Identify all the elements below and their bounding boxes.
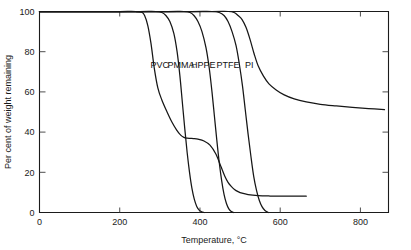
data-curves: [40, 11, 385, 212]
curve-hppe: [40, 11, 234, 212]
curve-pmma: [40, 11, 204, 212]
x-axis-ticks-bottom: [120, 208, 361, 213]
x-tick-label: 200: [112, 217, 127, 227]
x-axis-tick-labels: 0200400600800: [37, 217, 368, 227]
series-inline-labels: PVCPMMAHPPEPTFEPI: [151, 60, 254, 70]
y-axis-title: Per cent of weight remaining: [3, 55, 13, 169]
x-axis-ticks-top: [120, 12, 361, 17]
x-tick-label: 600: [273, 217, 288, 227]
series-label-ptfe: PTFE: [217, 60, 240, 70]
y-axis-ticks-right: [383, 52, 389, 173]
tga-chart: 0200400600800 020406080100 PVCPMMAHPPEPT…: [0, 0, 411, 250]
series-label-pi: PI: [245, 60, 254, 70]
y-tick-label: 20: [24, 168, 34, 178]
curve-ptfe: [40, 11, 269, 212]
x-tick-label: 0: [37, 217, 42, 227]
series-label-hppe: HPPE: [191, 60, 216, 70]
x-tick-label: 800: [353, 217, 368, 227]
curve-pvc: [40, 11, 307, 196]
y-tick-label: 80: [24, 47, 34, 57]
y-tick-label: 100: [19, 7, 34, 17]
y-tick-label: 60: [24, 87, 34, 97]
y-tick-label: 0: [29, 208, 34, 218]
chart-svg: 0200400600800 020406080100 PVCPMMAHPPEPT…: [0, 0, 411, 250]
y-axis-ticks-left: [40, 52, 46, 173]
y-axis-tick-labels: 020406080100: [19, 7, 34, 218]
x-tick-label: 400: [192, 217, 207, 227]
x-axis-title: Temperature, °C: [181, 235, 247, 245]
y-tick-label: 40: [24, 127, 34, 137]
